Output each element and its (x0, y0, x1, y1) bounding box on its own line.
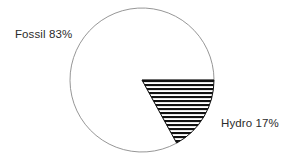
pie-chart-canvas (0, 0, 291, 167)
pie-label-hydro: Hydro 17% (221, 117, 279, 130)
pie-chart-figure: Fossil 83% Hydro 17% (0, 0, 291, 167)
pie-label-fossil: Fossil 83% (15, 28, 72, 41)
